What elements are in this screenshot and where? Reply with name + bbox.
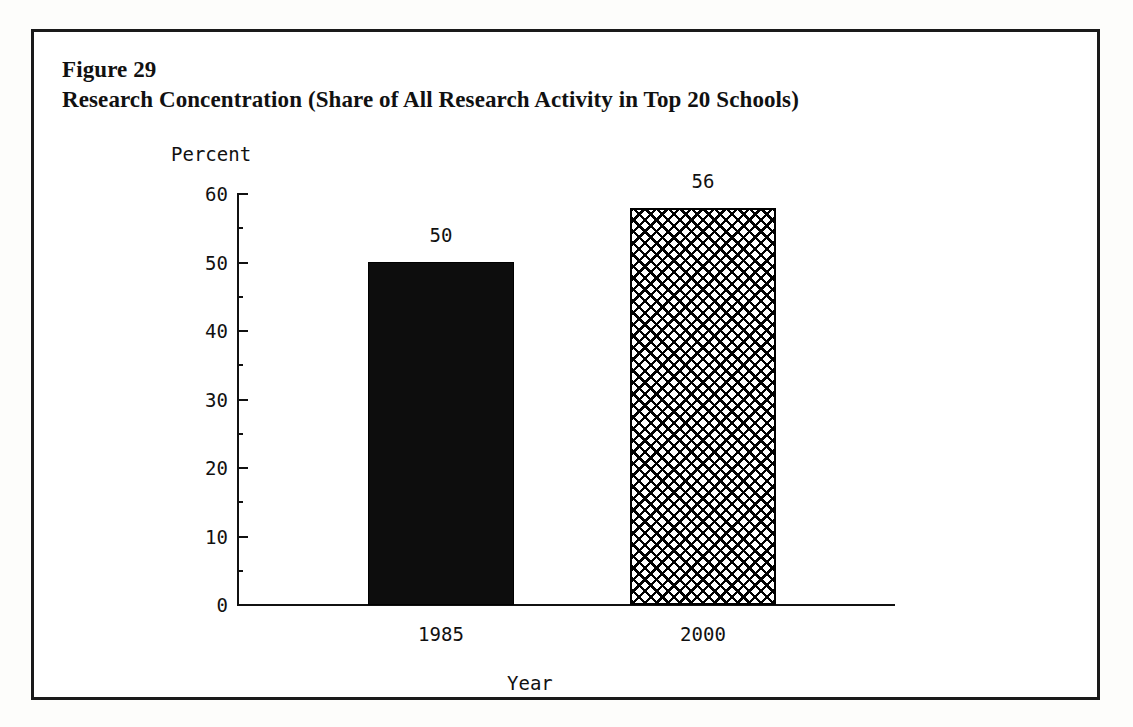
page-title: Research Concentration (Share of All Res… — [62, 85, 1022, 115]
figure-border — [31, 29, 1100, 700]
figure-root: Figure 29 Research Concentration (Share … — [0, 0, 1133, 727]
figure-number: Figure 29 — [62, 55, 1022, 85]
figure-title-block: Figure 29 Research Concentration (Share … — [62, 55, 1022, 115]
